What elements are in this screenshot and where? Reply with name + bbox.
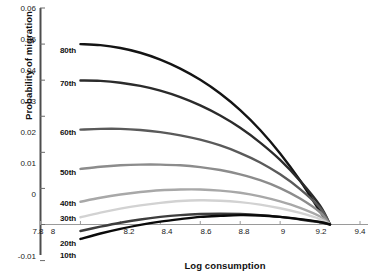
series-label-50th: 50th [60, 168, 76, 177]
series-label-70th: 70th [60, 79, 76, 88]
plot-area [0, 0, 382, 280]
series-curve-80th [80, 44, 330, 224]
series-label-30th: 30th [60, 214, 76, 223]
series-label-40th: 40th [60, 199, 76, 208]
y-tick-label-4: 0.02 [2, 128, 36, 137]
series-curve-70th [80, 81, 330, 225]
y-tick-label-6: 0 [2, 190, 36, 199]
series-curves [80, 44, 330, 239]
y-tick-label-0: 0.06 [2, 4, 36, 13]
x-tick-label-6: 9 [266, 227, 300, 236]
x-tick-label-3: 8.4 [150, 227, 184, 236]
y-tick-label-2: 0.04 [2, 66, 36, 75]
x-tick-label-5: 8.8 [227, 227, 261, 236]
x-tick-label-7: 9.2 [304, 227, 338, 236]
series-curve-30th [80, 200, 330, 224]
chart-figure: Probability of migration 0.06 0.05 0.04 … [0, 0, 382, 280]
x-axis-title: Log consumption [0, 260, 382, 271]
series-label-80th: 80th [60, 46, 76, 55]
y-tick-label-3: 0.03 [2, 97, 36, 106]
y-tick-label-5: 0.01 [2, 159, 36, 168]
cropped-caption-strip [0, 273, 382, 280]
series-label-10th: 10th [60, 251, 76, 260]
x-tick-label-1: 8 [36, 227, 70, 236]
x-tick-label-4: 8.6 [189, 227, 223, 236]
y-tick-label-1: 0.05 [2, 35, 36, 44]
x-tick-label-2: 8.2 [112, 227, 146, 236]
x-axis-title-text: Log consumption [184, 260, 265, 271]
series-label-20th: 20th [60, 239, 76, 248]
series-label-60th: 60th [60, 128, 76, 137]
x-tick-label-8: 9.4 [343, 227, 377, 236]
